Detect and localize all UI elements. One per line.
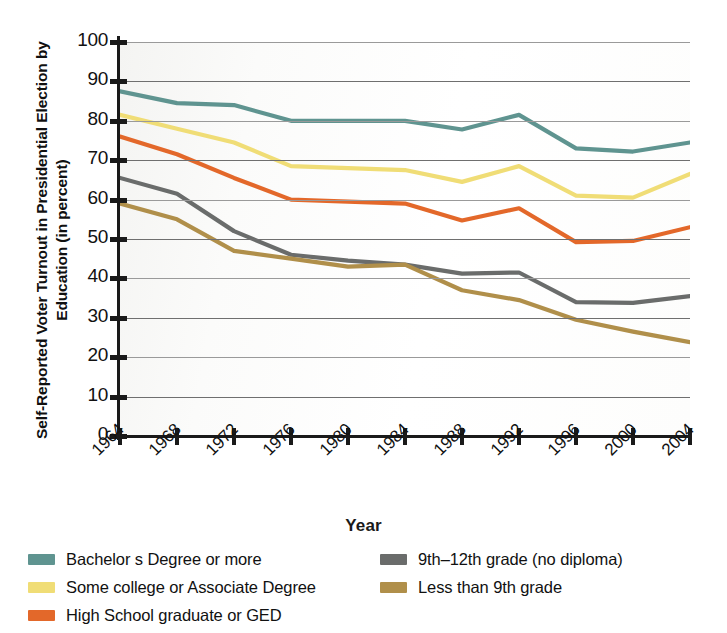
y-tick-mark	[110, 119, 127, 124]
y-tick-label: 80	[66, 108, 108, 130]
y-axis-tick-labels: 1009080706050403020100	[20, 0, 108, 633]
y-tick-label: 10	[66, 384, 108, 406]
legend-item-label: High School graduate or GED	[66, 606, 282, 625]
gridline	[120, 200, 690, 201]
y-tick-label: 100	[66, 29, 108, 51]
legend-color-swatch	[380, 554, 407, 565]
y-tick-mark	[110, 40, 127, 45]
y-tick-mark	[110, 276, 127, 281]
plot-area	[120, 42, 690, 436]
y-tick-mark	[110, 395, 127, 400]
series-line	[120, 204, 690, 343]
legend-item[interactable]: 9th–12th grade (no diploma)	[380, 546, 623, 572]
y-tick-mark	[110, 355, 127, 360]
legend-column-right: 9th–12th grade (no diploma)Less than 9th…	[380, 546, 623, 602]
gridline	[120, 121, 690, 122]
gridline	[120, 397, 690, 398]
legend-color-swatch	[380, 582, 407, 593]
legend-item-label: Bachelor s Degree or more	[66, 550, 262, 569]
series-line	[120, 115, 690, 198]
y-tick-mark	[110, 316, 127, 321]
y-tick-label: 90	[66, 68, 108, 90]
legend-item[interactable]: Less than 9th grade	[380, 574, 623, 600]
legend-item-label: 9th–12th grade (no diploma)	[418, 550, 623, 569]
gridline	[120, 42, 690, 43]
series-line	[120, 137, 690, 243]
gridline	[120, 278, 690, 279]
chart-legend: Bachelor s Degree or moreSome college or…	[0, 546, 727, 626]
chart-figure: Self-Reported Voter Turnout in President…	[0, 0, 727, 633]
y-tick-mark	[110, 198, 127, 203]
legend-item[interactable]: Some college or Associate Degree	[28, 574, 316, 600]
gridline	[120, 81, 690, 82]
y-tick-label: 60	[66, 187, 108, 209]
y-tick-label: 70	[66, 147, 108, 169]
legend-item[interactable]: Bachelor s Degree or more	[28, 546, 316, 572]
y-tick-label: 40	[66, 265, 108, 287]
legend-column-left: Bachelor s Degree or moreSome college or…	[28, 546, 316, 630]
y-tick-mark	[110, 79, 127, 84]
y-tick-label: 20	[66, 344, 108, 366]
legend-color-swatch	[28, 610, 55, 621]
y-tick-mark	[110, 237, 127, 242]
gridline	[120, 318, 690, 319]
legend-color-swatch	[28, 554, 55, 565]
y-tick-mark	[110, 158, 127, 163]
y-tick-label: 30	[66, 305, 108, 327]
legend-item-label: Less than 9th grade	[418, 578, 562, 597]
gridline	[120, 160, 690, 161]
x-axis-title: Year	[0, 516, 727, 536]
legend-color-swatch	[28, 582, 55, 593]
gridline	[120, 239, 690, 240]
gridline	[120, 357, 690, 358]
legend-item[interactable]: High School graduate or GED	[28, 602, 316, 628]
y-tick-label: 50	[66, 226, 108, 248]
legend-item-label: Some college or Associate Degree	[66, 578, 316, 597]
